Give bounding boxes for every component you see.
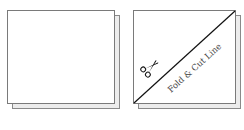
fold-cut-label: Fold & Cut Line <box>166 41 224 94</box>
scissors-icon <box>140 57 162 78</box>
fold-cut-line-overlay: Fold & Cut Line <box>0 0 244 130</box>
fold-line <box>134 11 235 103</box>
